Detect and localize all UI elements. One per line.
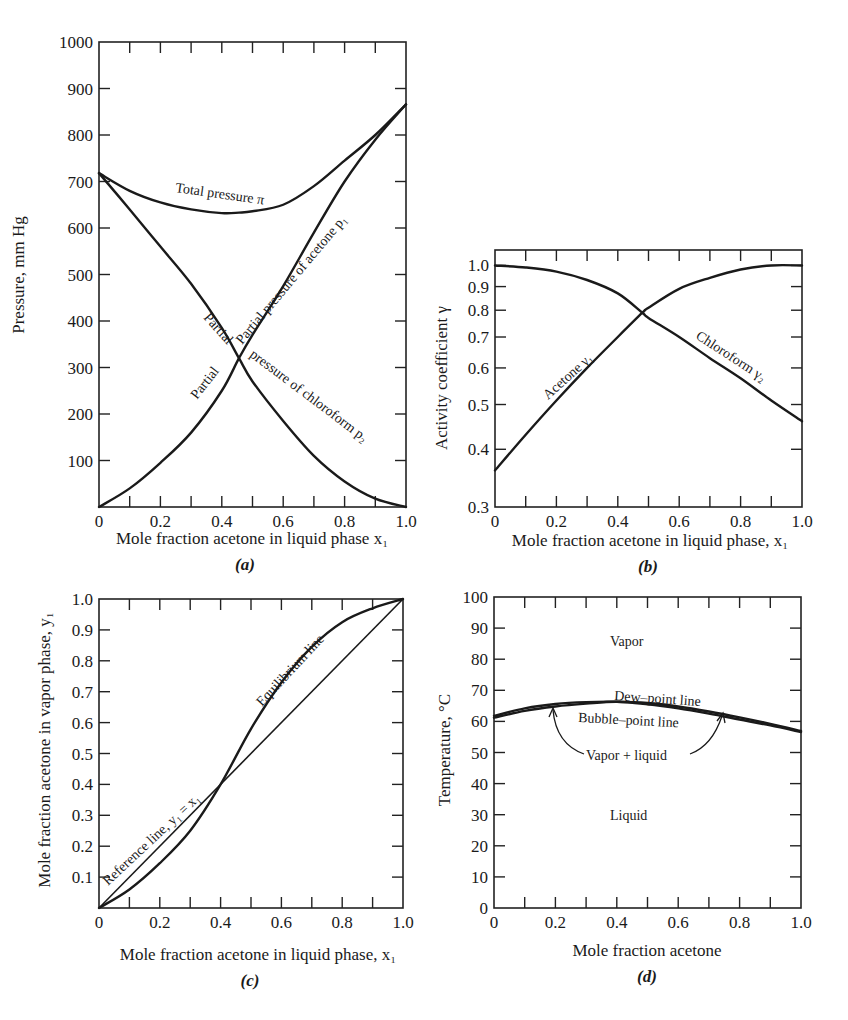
- x-tick-label: 0.8: [730, 512, 751, 531]
- x-tick-label: 0.2: [149, 913, 170, 932]
- y-tick-label: 800: [68, 126, 94, 145]
- x-tick-label: 0.4: [606, 913, 628, 932]
- panel-b-label: (b): [638, 557, 658, 576]
- y-tick-label: 0.4: [72, 775, 94, 794]
- y-tick-label: 0.9: [72, 621, 93, 640]
- y-tick-label: 100: [463, 588, 489, 607]
- annotation-dew-point: Dew–point line: [614, 688, 702, 709]
- panel-b-xlabel: Mole fraction acetone in liquid phase, x…: [512, 531, 788, 550]
- y-tick-label: 0.8: [72, 652, 93, 671]
- annotation-partial-acetone: Partial pressure of acetone p₁: [233, 212, 350, 347]
- y-tick-label: 1.0: [468, 256, 489, 275]
- y-tick-label: 0.1: [72, 868, 93, 887]
- y-tick-label: 200: [68, 405, 94, 424]
- y-tick-label: 0.5: [468, 396, 489, 415]
- y-tick-label: 90: [471, 619, 488, 638]
- x-tick-label: 1.0: [395, 512, 416, 531]
- y-tick-label: 0.5: [72, 745, 93, 764]
- annotation-vapor-liquid: Vapor + liquid: [586, 748, 667, 763]
- annotation-vapor-region: Vapor: [610, 634, 644, 649]
- y-tick-label: 0: [480, 899, 489, 918]
- series-line-partial-pressure-of-acetone-p1: [99, 104, 406, 507]
- series-line-reference-line-y1-x1: [99, 599, 403, 908]
- y-tick-label: 400: [68, 312, 94, 331]
- panel-b-activity-chart: 00.20.40.60.81.00.30.40.50.60.70.80.91.0: [468, 250, 813, 531]
- y-tick-label: 30: [471, 806, 488, 825]
- y-tick-label: 600: [68, 219, 94, 238]
- series-line-partial-pressure-of-chloroform-p2: [99, 173, 406, 507]
- y-tick-label: 1.0: [72, 590, 93, 609]
- y-tick-label: 40: [471, 775, 488, 794]
- figure-canvas: 00.20.40.60.81.0100200300400500600700800…: [0, 0, 848, 1020]
- panel-a-pressure-chart: 00.20.40.60.81.0100200300400500600700800…: [59, 33, 417, 531]
- annotation-liquid-region: Liquid: [610, 808, 647, 823]
- y-tick-label: 10: [471, 868, 488, 887]
- panel-c-xlabel: Mole fraction acetone in liquid phase, x…: [120, 945, 396, 964]
- y-tick-label: 0.2: [72, 837, 93, 856]
- panel-d-label: (d): [637, 967, 657, 986]
- annotation-equilibrium-line: Equilibrium line: [253, 631, 327, 709]
- panel-d-ylabel: Temperature, °C: [435, 694, 454, 806]
- x-tick-label: 0.8: [729, 913, 750, 932]
- x-tick-label: 0.2: [546, 512, 567, 531]
- y-tick-label: 300: [68, 359, 94, 378]
- y-tick-label: 900: [68, 80, 94, 99]
- y-tick-label: 0.7: [468, 328, 490, 347]
- x-tick-label: 1.0: [790, 913, 811, 932]
- panel-d-xlabel: Mole fraction acetone: [572, 941, 721, 960]
- annotation-reference-line: Reference line, y₁ = x₁: [100, 791, 203, 889]
- x-tick-label: 0.6: [669, 512, 690, 531]
- panel-a-xlabel: Mole fraction acetone in liquid phase x₁: [116, 529, 388, 548]
- y-tick-label: 100: [68, 452, 94, 471]
- y-tick-label: 0.4: [468, 440, 490, 459]
- annotation-chloroform-gamma: Chloroform γ₂: [693, 328, 769, 385]
- y-tick-label: 700: [68, 173, 94, 192]
- y-tick-label: 70: [471, 681, 488, 700]
- x-tick-label: 0: [95, 512, 104, 531]
- y-tick-label: 60: [471, 712, 488, 731]
- annotation-pressure-chloroform: pressure of chloroform p₂: [247, 346, 371, 445]
- y-tick-label: 0.9: [468, 278, 489, 297]
- annotation-total-pressure: Total pressure π: [175, 180, 266, 207]
- panel-a-ylabel: Pressure, mm Hg: [9, 216, 28, 334]
- x-tick-label: 0: [95, 913, 104, 932]
- y-tick-label: 0.8: [468, 301, 489, 320]
- y-tick-label: 0.6: [468, 359, 489, 378]
- panel-c-xy-chart: 00.20.40.60.81.00.10.20.30.40.50.60.70.8…: [72, 590, 414, 932]
- y-tick-label: 50: [471, 744, 488, 763]
- x-tick-label: 1.0: [392, 913, 413, 932]
- x-tick-label: 0.2: [545, 913, 566, 932]
- series-line-chloroform-2: [495, 265, 802, 421]
- panel-b-ylabel: Activity coefficient γ: [432, 305, 451, 450]
- annotation-partial-chloroform-1: Partial: [201, 310, 237, 347]
- y-tick-label: 80: [471, 650, 488, 669]
- panel-a-label: (a): [235, 555, 255, 574]
- y-tick-label: 0.7: [72, 683, 94, 702]
- x-tick-label: 0.8: [332, 913, 353, 932]
- annotation-acetone-gamma: Acetone γ₁: [540, 350, 596, 402]
- annotation-bubble-point: Bubble–point line: [578, 710, 679, 730]
- x-tick-label: 1.0: [791, 512, 812, 531]
- panel-c-ylabel: Mole fraction acetone in vapor phase, y₁: [35, 612, 54, 887]
- x-tick-label: 0: [490, 913, 499, 932]
- x-tick-label: 0.6: [271, 913, 292, 932]
- y-tick-label: 500: [68, 266, 94, 285]
- y-tick-label: 1000: [59, 33, 93, 52]
- arrow-vapor-liquid-right: [690, 716, 722, 754]
- x-tick-label: 0.4: [607, 512, 629, 531]
- y-tick-label: 0.6: [72, 714, 93, 733]
- y-tick-label: 0.3: [468, 498, 489, 517]
- annotation-partial-acetone-lower: Partial: [188, 364, 222, 402]
- x-tick-label: 0.4: [210, 913, 232, 932]
- y-tick-label: 20: [471, 837, 488, 856]
- x-tick-label: 0.6: [668, 913, 689, 932]
- y-tick-label: 0.3: [72, 806, 93, 825]
- panel-c-label: (c): [241, 971, 260, 990]
- x-tick-label: 0: [491, 512, 500, 531]
